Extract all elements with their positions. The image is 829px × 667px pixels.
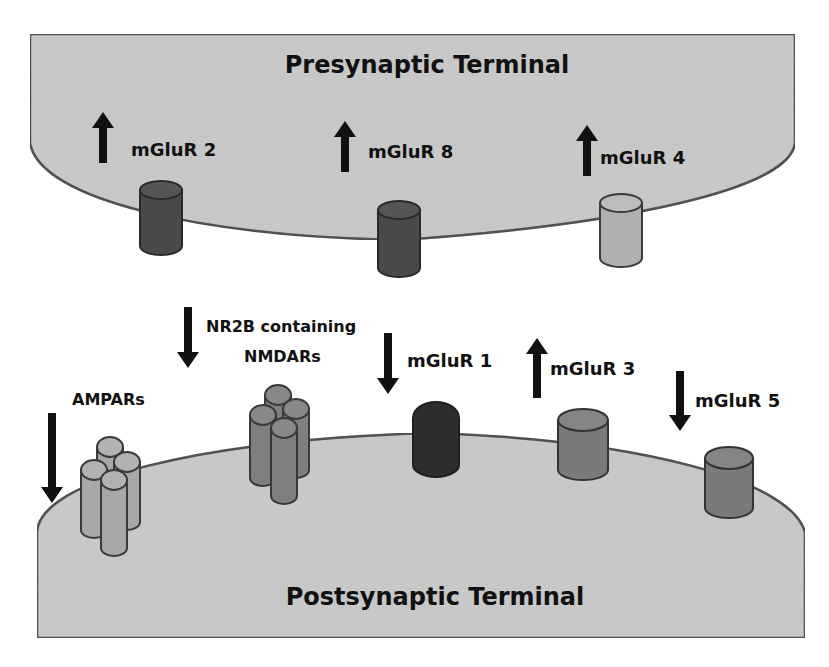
arrow-down-icon: [177, 307, 199, 368]
receptor-label: mGluR 2: [131, 139, 216, 160]
receptor-label: mGluR 5: [695, 390, 780, 411]
capsule-receptor: [413, 402, 459, 477]
cylinder-receptor: [705, 447, 753, 518]
receptor-label-line1: NR2B containing: [206, 317, 356, 336]
cylinder-receptor: [378, 201, 420, 277]
receptor-label: mGluR 1: [407, 350, 492, 371]
postsynaptic-label: Postsynaptic Terminal: [286, 583, 585, 611]
cylinder-receptor: [558, 409, 608, 480]
presynaptic-terminal: Presynaptic Terminal mGluR 2 mGluR 8 mGl…: [30, 34, 795, 277]
receptor-label-line2: NMDARs: [244, 347, 321, 366]
cylinder-receptor: [600, 194, 642, 267]
arrow-down-icon: [41, 413, 63, 503]
receptor-label: mGluR 4: [600, 147, 685, 168]
receptor-label: mGluR 8: [368, 141, 453, 162]
postsynaptic-terminal: Postsynaptic Terminal AMPARs NR2B contai…: [37, 307, 805, 638]
arrow-down-icon: [669, 371, 691, 431]
presynaptic-label: Presynaptic Terminal: [285, 51, 569, 79]
receptor-label: AMPARs: [72, 390, 145, 409]
arrow-down-icon: [377, 333, 399, 394]
cylinder-receptor: [140, 181, 182, 255]
receptor-label: mGluR 3: [550, 358, 635, 379]
synapse-diagram: Presynaptic Terminal mGluR 2 mGluR 8 mGl…: [0, 0, 829, 667]
arrow-up-icon: [526, 338, 548, 398]
